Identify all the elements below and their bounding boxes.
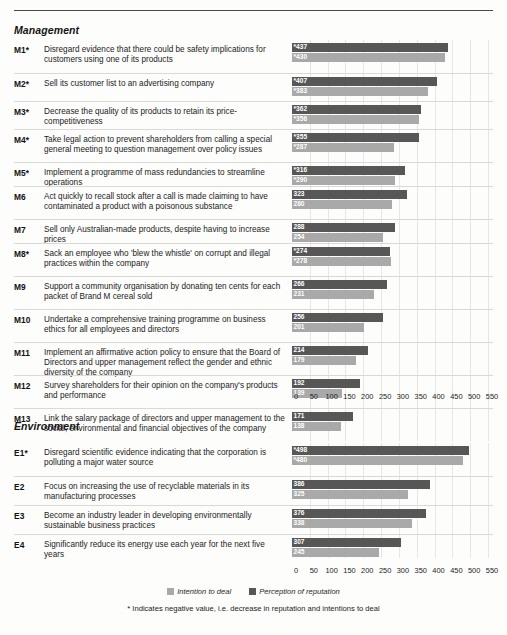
chart-legend: Intention to dealPerception of reputatio…	[0, 587, 507, 596]
axis-tick-label: 350	[415, 392, 427, 401]
row-code: M10	[14, 310, 44, 325]
bar-value-label: 376	[294, 509, 305, 518]
bar-value-label: 214	[294, 346, 305, 355]
bar-value-label: 280	[294, 200, 305, 209]
row-bars: *407*383	[292, 74, 493, 101]
bar-value-label: *362	[294, 105, 308, 114]
bar-value-label: *316	[294, 166, 308, 175]
axis-tick-label: 300	[397, 566, 409, 575]
axis-tick-label: 100	[325, 392, 337, 401]
bar-intention: *480	[292, 456, 463, 465]
bar-reputation: 323	[292, 190, 407, 199]
chart-row: M6Act quickly to recall stock after a ca…	[14, 186, 493, 219]
row-bars: 214179	[292, 343, 493, 375]
row-statement: Become an industry leader in developing …	[44, 506, 292, 531]
bar-reputation: 266	[292, 280, 387, 289]
bar-intention: *430	[292, 53, 445, 62]
bar-intention: 254	[292, 233, 383, 242]
bar-intention: 338	[292, 519, 412, 528]
row-bars: *437*430	[292, 40, 493, 73]
bar-reputation: 171	[292, 412, 353, 421]
chart-row: E1*Disregard scientific evidence indicat…	[14, 443, 493, 476]
row-bars: *498*480	[292, 443, 493, 476]
row-statement: Decrease the quality of its products to …	[44, 102, 292, 127]
row-code: M11	[14, 343, 44, 358]
bar-reputation: *274	[292, 247, 390, 256]
row-statement: Sell its customer list to an advertising…	[44, 74, 292, 89]
bar-value-label: 266	[294, 280, 305, 289]
row-bars: 307245	[292, 535, 493, 558]
row-statement: Sell only Australian-made products, desp…	[44, 220, 292, 245]
bar-value-label: 323	[294, 190, 305, 199]
row-statement: Support a community organisation by dona…	[44, 277, 292, 302]
chart-row: M1*Disregard evidence that there could b…	[14, 40, 493, 73]
axis-tick-label: 300	[397, 392, 409, 401]
bar-value-label: *356	[294, 115, 308, 124]
row-bars: 376338	[292, 506, 493, 534]
axis-tick-label: 100	[325, 566, 337, 575]
chart-row: M3*Decrease the quality of its products …	[14, 101, 493, 129]
bar-value-label: 179	[294, 356, 305, 365]
bar-intention: *287	[292, 143, 394, 152]
bar-intention: *383	[292, 87, 428, 96]
bar-reputation: *362	[292, 105, 421, 114]
bar-value-label: *437	[294, 43, 308, 52]
legend-item-reputation: Perception of reputation	[249, 587, 340, 596]
section-title-environment: Environment	[14, 420, 79, 432]
bar-value-label: *383	[294, 87, 308, 96]
legend-swatch-reputation	[249, 588, 256, 595]
row-statement: Link the salary package of directors and…	[44, 409, 292, 434]
bar-value-label: 171	[294, 412, 305, 421]
legend-label-intention: Intention to deal	[177, 587, 231, 596]
axis-tick-label: 400	[432, 392, 444, 401]
row-group-environment: E1*Disregard scientific evidence indicat…	[14, 443, 493, 558]
row-group-management: M1*Disregard evidence that there could b…	[14, 40, 493, 441]
chart-row: M13Link the salary package of directors …	[14, 408, 493, 441]
chart-row: M9Support a community organisation by do…	[14, 276, 493, 309]
axis-tick-label: 0	[294, 392, 298, 401]
row-bars: 323280	[292, 187, 493, 219]
bar-reputation: 256	[292, 313, 383, 322]
bar-value-label: 307	[294, 538, 305, 547]
bar-value-label: 192	[294, 379, 305, 388]
axis-tick-label: 400	[432, 566, 444, 575]
axis-tick-label: 50	[310, 566, 318, 575]
bar-value-label: *480	[294, 456, 308, 465]
row-statement: Significantly reduce its energy use each…	[44, 535, 292, 560]
chart-row: E2Focus on increasing the use of recycla…	[14, 476, 493, 505]
bar-reputation: *407	[292, 77, 437, 86]
bar-value-label: 288	[294, 223, 305, 232]
bar-value-label: *407	[294, 77, 308, 86]
axis-tick-label: 550	[486, 566, 498, 575]
row-code: M9	[14, 277, 44, 292]
bar-intention: *356	[292, 115, 419, 124]
bar-value-label: *287	[294, 143, 308, 152]
bar-value-label: *355	[294, 133, 308, 142]
bar-intention: 325	[292, 490, 408, 499]
row-bars: *274*278	[292, 244, 493, 276]
chart-row: E3Become an industry leader in developin…	[14, 505, 493, 534]
row-code: M3*	[14, 102, 44, 117]
row-bars: 256201	[292, 310, 493, 342]
bar-value-label: 231	[294, 290, 305, 299]
axis-tick-label: 200	[361, 392, 373, 401]
bar-reputation: 376	[292, 509, 426, 518]
bar-value-label: *274	[294, 247, 308, 256]
bar-intention: 138	[292, 422, 341, 431]
row-statement: Sack an employee who 'blew the whistle' …	[44, 244, 292, 269]
axis-tick-label: 0	[294, 566, 298, 575]
bar-reputation: 307	[292, 538, 401, 547]
bar-reputation: *437	[292, 43, 448, 52]
bar-value-label: 325	[294, 490, 305, 499]
row-code: M12	[14, 376, 44, 391]
bar-value-label: *278	[294, 257, 308, 266]
axis-tick-label: 200	[361, 566, 373, 575]
bar-intention: 179	[292, 356, 356, 365]
axis-tick-label: 500	[468, 392, 480, 401]
row-statement: Implement a programme of mass redundanci…	[44, 163, 292, 188]
row-code: M5*	[14, 163, 44, 178]
chart-row: E4Significantly reduce its energy use ea…	[14, 534, 493, 558]
legend-item-intention: Intention to deal	[167, 587, 231, 596]
axis-tick-label: 500	[468, 566, 480, 575]
bar-intention: *278	[292, 257, 391, 266]
